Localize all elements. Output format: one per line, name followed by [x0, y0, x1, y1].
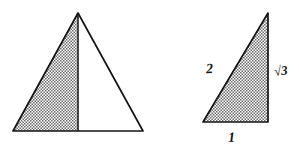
- hypotenuse-label: 2: [206, 62, 214, 76]
- figure-canvas: 2 √3 1: [0, 0, 299, 151]
- base-side-label: 1: [228, 131, 235, 145]
- vertical-side-label: √3: [273, 63, 288, 77]
- equilateral-triangle-group: [13, 13, 143, 131]
- triangle-diagram: [0, 0, 299, 151]
